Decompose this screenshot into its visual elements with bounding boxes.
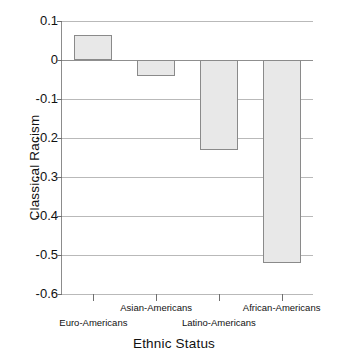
x-axis-tick	[156, 294, 157, 301]
x-axis-tick-label: Euro-Americans	[59, 317, 127, 328]
x-axis-tick	[219, 294, 220, 301]
y-axis-tick	[57, 21, 62, 22]
y-axis-tick	[57, 177, 62, 178]
bar	[200, 60, 238, 150]
bar-chart: Classical Racism 0.10-0.1-0.2-0.3-0.4-0.…	[0, 0, 348, 361]
gridline	[62, 21, 313, 22]
y-axis-tick-label: -0.5	[18, 248, 58, 261]
y-axis-tick-label: 0	[18, 53, 58, 66]
y-axis-tick	[57, 138, 62, 139]
plot-area	[62, 21, 313, 294]
y-axis-tick-label: -0.6	[18, 287, 58, 300]
x-axis-tick	[282, 294, 283, 301]
y-axis-tick	[57, 216, 62, 217]
y-axis-tick-labels: 0.10-0.1-0.2-0.3-0.4-0.5-0.6	[14, 0, 58, 361]
y-axis-tick	[57, 99, 62, 100]
y-axis-tick-label: -0.1	[18, 92, 58, 105]
y-axis-tick	[57, 60, 62, 61]
x-axis-title: Ethnic Status	[0, 336, 348, 351]
y-axis-tick-label: -0.4	[18, 209, 58, 222]
x-axis-tick-label: Latino-Americans	[182, 317, 256, 328]
y-axis-tick-label: 0.1	[18, 14, 58, 27]
bar	[74, 35, 112, 60]
x-axis-tick-label: African-Americans	[243, 302, 321, 313]
y-axis-tick-label: -0.2	[18, 131, 58, 144]
bar	[137, 60, 175, 76]
y-axis-tick	[57, 294, 62, 295]
y-axis-line	[61, 21, 62, 294]
gridline	[62, 294, 313, 295]
y-axis-tick	[57, 255, 62, 256]
x-axis-tick-label: Asian-Americans	[120, 302, 192, 313]
bar	[263, 60, 301, 263]
x-axis-tick	[93, 294, 94, 301]
y-axis-tick-label: -0.3	[18, 170, 58, 183]
